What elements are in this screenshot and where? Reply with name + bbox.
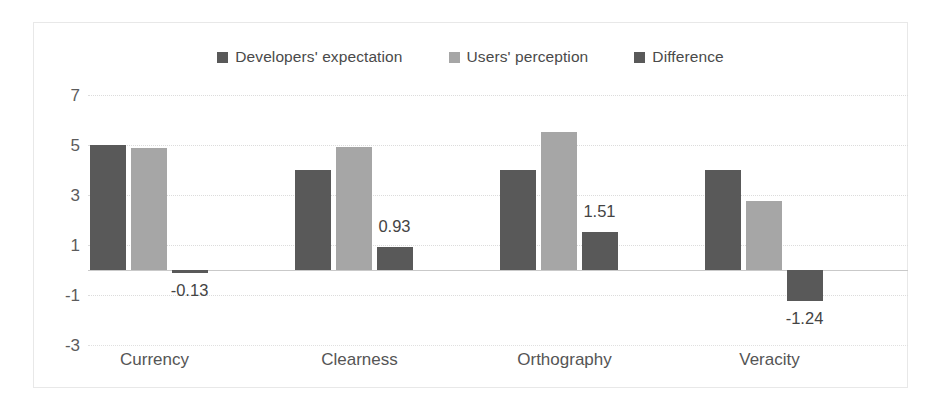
legend-swatch-icon (634, 52, 645, 63)
y-tick-label: -3 (40, 337, 80, 354)
bar[interactable] (500, 170, 536, 270)
x-axis: CurrencyClearnessOrthographyVeracity (88, 350, 908, 380)
legend-label: Difference (652, 48, 723, 66)
bar[interactable] (172, 270, 208, 273)
data-label: 1.51 (583, 202, 615, 221)
bar[interactable] (295, 170, 331, 270)
y-tick-label: 5 (40, 137, 80, 154)
gridline (88, 295, 908, 296)
data-label: -0.13 (171, 281, 209, 300)
y-tick-label: 1 (40, 237, 80, 254)
bar[interactable] (90, 145, 126, 270)
x-tick-label: Orthography (517, 350, 612, 370)
bar[interactable] (377, 247, 413, 270)
x-tick-label: Clearness (321, 350, 398, 370)
bar[interactable] (541, 132, 577, 270)
y-axis: 7531-1-3 (40, 95, 80, 345)
legend-item-users-perception[interactable]: Users' perception (449, 48, 589, 66)
data-label: 0.93 (378, 217, 410, 236)
gridline (88, 195, 908, 196)
bar[interactable] (131, 148, 167, 270)
legend-swatch-icon (217, 52, 228, 63)
gridline (88, 245, 908, 246)
legend-label: Developers' expectation (235, 48, 402, 66)
bar[interactable] (582, 232, 618, 270)
y-tick-label: 3 (40, 187, 80, 204)
legend-label: Users' perception (467, 48, 589, 66)
x-axis-line (88, 345, 908, 346)
legend-item-difference[interactable]: Difference (634, 48, 723, 66)
bar[interactable] (746, 201, 782, 270)
zero-line (88, 270, 908, 271)
bar[interactable] (705, 170, 741, 270)
legend-item-developers-expectation[interactable]: Developers' expectation (217, 48, 402, 66)
legend-swatch-icon (449, 52, 460, 63)
gridline (88, 95, 908, 96)
bar[interactable] (787, 270, 823, 301)
x-tick-label: Currency (120, 350, 189, 370)
chart-legend: Developers' expectation Users' perceptio… (33, 44, 908, 70)
data-label: -1.24 (786, 309, 824, 328)
bar-chart: Developers' expectation Users' perceptio… (0, 0, 942, 413)
bar[interactable] (336, 147, 372, 270)
x-tick-label: Veracity (739, 350, 799, 370)
y-tick-label: -1 (40, 287, 80, 304)
y-tick-label: 7 (40, 87, 80, 104)
plot-area: -0.130.931.51-1.24 (88, 95, 908, 345)
gridline (88, 145, 908, 146)
